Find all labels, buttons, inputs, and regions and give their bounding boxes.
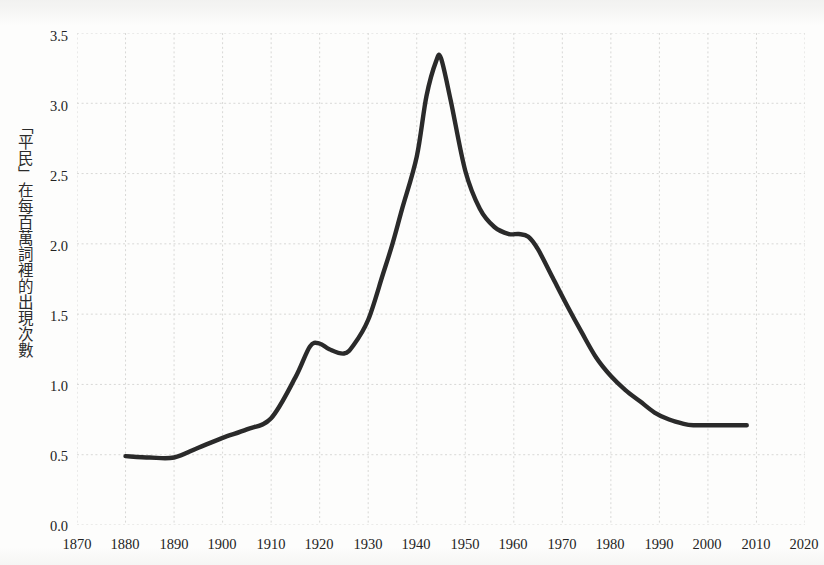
x-tick-label-1980: 1980 xyxy=(587,536,633,553)
x-tick-label-2000: 2000 xyxy=(684,536,730,553)
y-tick-label-0: 0.0 xyxy=(34,518,68,535)
x-tick-label-1910: 1910 xyxy=(248,536,294,553)
x-tick-label-1920: 1920 xyxy=(296,536,342,553)
y-tick-label-1: 0.5 xyxy=(34,448,68,465)
x-tick-label-1870: 1870 xyxy=(54,536,100,553)
x-tick-label-1970: 1970 xyxy=(539,536,585,553)
x-tick-label-2010: 2010 xyxy=(733,536,779,553)
data-series-line xyxy=(126,55,747,459)
y-tick-label-7: 3.5 xyxy=(34,28,68,45)
y-axis-label: 「平民」在每百萬詞裡的出現次數 xyxy=(6,118,32,358)
plot-area xyxy=(77,33,805,525)
y-tick-label-2: 1.0 xyxy=(34,378,68,395)
y-tick-label-3: 1.5 xyxy=(34,308,68,325)
y-tick-label-4: 2.0 xyxy=(34,238,68,255)
chart-svg xyxy=(77,33,805,525)
x-tick-label-1950: 1950 xyxy=(442,536,488,553)
x-tick-label-1960: 1960 xyxy=(490,536,536,553)
x-tick-label-1880: 1880 xyxy=(102,536,148,553)
x-tick-label-1900: 1900 xyxy=(199,536,245,553)
x-tick-label-2020: 2020 xyxy=(781,536,824,553)
x-tick-label-1940: 1940 xyxy=(393,536,439,553)
x-tick-label-1930: 1930 xyxy=(345,536,391,553)
y-tick-label-6: 3.0 xyxy=(34,98,68,115)
ngram-chart-figure: 「平民」在每百萬詞裡的出現次數 0.0 0.5 1.0 1.5 2.0 2.5 … xyxy=(0,0,824,565)
x-tick-label-1890: 1890 xyxy=(151,536,197,553)
y-tick-label-5: 2.5 xyxy=(34,168,68,185)
x-tick-label-1990: 1990 xyxy=(636,536,682,553)
